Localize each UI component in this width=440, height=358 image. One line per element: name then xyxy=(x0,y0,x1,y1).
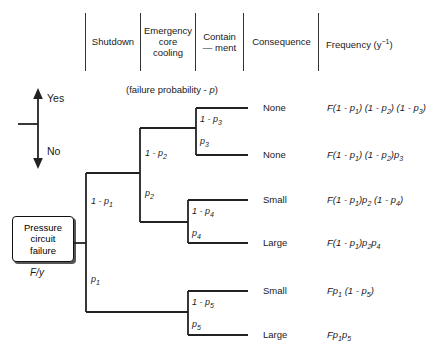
p4-top-sub: 4 xyxy=(210,211,214,218)
branch-label-p3-bottom: p3 xyxy=(200,136,209,148)
consequence-row-4: Large xyxy=(263,237,287,248)
frequency-row-6: Fp1p5 xyxy=(327,329,351,342)
consequence-row-5: Small xyxy=(263,285,287,296)
consequence-row-2: None xyxy=(263,149,286,160)
branch-label-p1-top: 1 - p1 xyxy=(91,196,113,208)
p5-bot-sub: 5 xyxy=(197,324,201,331)
branch-label-p2-bottom: p2 xyxy=(145,188,154,200)
legend-arrowhead-no xyxy=(33,158,43,169)
p5-top-sub: 5 xyxy=(210,302,214,309)
p4-top-pre: 1 - xyxy=(192,206,205,216)
p3-bot-sub: 3 xyxy=(205,141,209,148)
branch-label-p5-bottom: p5 xyxy=(192,319,201,331)
p1-bot-sub: 1 xyxy=(96,279,100,286)
event-tree-lines xyxy=(0,0,440,358)
p1-top-sub: 1 xyxy=(109,201,113,208)
p5-top-pre: 1 - xyxy=(192,297,205,307)
p2-bot-sub: 2 xyxy=(150,193,154,200)
p3-top-sub: 3 xyxy=(218,119,222,126)
p1-top-pre: 1 - xyxy=(91,196,104,206)
frequency-row-1: F(1 - p1) (1 - p2) (1 - p3) xyxy=(327,102,426,115)
branch-label-p4-bottom: p4 xyxy=(192,228,201,240)
event-tree-diagram: Shutdown Emergency core cooling Contain … xyxy=(0,0,440,358)
p2-top-pre: 1 - xyxy=(145,148,158,158)
branch-label-p1-bottom: p1 xyxy=(91,274,100,286)
p4-bot-sub: 4 xyxy=(197,233,201,240)
frequency-row-2: F(1 - p1) (1 - p2)p3 xyxy=(327,149,403,162)
branch-label-p2-top: 1 - p2 xyxy=(145,148,167,160)
branch-label-p5-top: 1 - p5 xyxy=(192,297,214,309)
p3-top-pre: 1 - xyxy=(200,114,213,124)
consequence-row-1: None xyxy=(263,102,286,113)
consequence-row-3: Small xyxy=(263,194,287,205)
consequence-row-6: Large xyxy=(263,329,287,340)
frequency-row-4: F(1 - p1)p2p4 xyxy=(327,237,380,250)
p2-top-sub: 2 xyxy=(163,153,167,160)
frequency-row-3: F(1 - p1)p2 (1 - p4) xyxy=(327,194,403,207)
legend-arrowhead-yes xyxy=(33,88,43,99)
branch-label-p3-top: 1 - p3 xyxy=(200,114,222,126)
frequency-row-5: Fp1 (1 - p5) xyxy=(327,285,374,298)
branch-label-p4-top: 1 - p4 xyxy=(192,206,214,218)
